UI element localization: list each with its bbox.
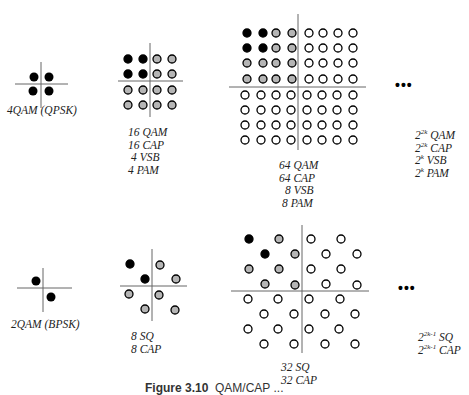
label-line: 32 CAP bbox=[281, 374, 317, 387]
label-line: 64 CAP bbox=[279, 172, 318, 185]
label-line: 2k PAM bbox=[415, 167, 455, 180]
label-general-2k-1: 22k-1 SQ 22k-1 CAP bbox=[418, 331, 461, 356]
label-line: 32 SQ bbox=[281, 361, 317, 374]
ellipsis-top: ••• bbox=[395, 77, 413, 93]
label-line: 22k-1 CAP bbox=[418, 344, 461, 357]
constellation-16qam bbox=[118, 43, 183, 117]
label-general-2k: 22k QAM 22k CAP 2k VSB 2k PAM bbox=[415, 129, 455, 179]
constellation-2qam bbox=[17, 268, 72, 312]
label-line: 4 PAM bbox=[128, 164, 167, 177]
ellipsis-bottom: ••• bbox=[398, 280, 416, 296]
label-line: 64 QAM bbox=[279, 159, 318, 172]
label-line: 8 PAM bbox=[279, 197, 318, 210]
label-64qam: 64 QAM 64 CAP 8 VSB 8 PAM bbox=[279, 159, 318, 209]
label-line: 16 CAP bbox=[128, 139, 167, 152]
label-line: 8 VSB bbox=[279, 184, 318, 197]
label-16qam: 16 QAM 16 CAP 4 VSB 4 PAM bbox=[128, 126, 167, 176]
label-line: 4 VSB bbox=[128, 151, 167, 164]
constellation-32sq bbox=[231, 225, 369, 353]
constellation-64qam bbox=[229, 14, 366, 150]
label-4qam: 4QAM (QPSK) bbox=[7, 104, 77, 117]
figure-caption-text: QAM/CAP ... bbox=[215, 381, 283, 395]
label-line: 8 CAP bbox=[131, 343, 161, 356]
figure-caption: Figure 3.10 QAM/CAP ... bbox=[145, 381, 284, 395]
figure-number: Figure 3.10 bbox=[145, 381, 208, 395]
label-2qam: 2QAM (BPSK) bbox=[11, 318, 80, 331]
label-32sq: 32 SQ 32 CAP bbox=[281, 361, 317, 386]
constellation-4qam bbox=[15, 62, 68, 108]
label-line: 8 SQ bbox=[131, 330, 161, 343]
label-line: 16 QAM bbox=[128, 126, 167, 139]
constellation-8sq bbox=[120, 249, 187, 321]
label-8sq: 8 SQ 8 CAP bbox=[131, 330, 161, 355]
